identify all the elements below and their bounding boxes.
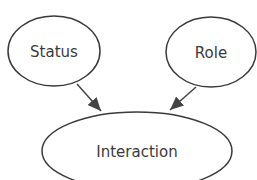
node-interaction-label: Interaction	[96, 143, 177, 161]
node-status: Status	[8, 16, 100, 86]
node-interaction: Interaction	[42, 112, 232, 180]
node-role-label: Role	[195, 44, 227, 62]
diagram-canvas: Status Role Interaction	[0, 0, 257, 180]
edge-status-interaction	[77, 84, 101, 111]
node-role: Role	[166, 17, 256, 87]
node-status-label: Status	[30, 43, 78, 61]
edge-role-interaction	[170, 87, 196, 110]
